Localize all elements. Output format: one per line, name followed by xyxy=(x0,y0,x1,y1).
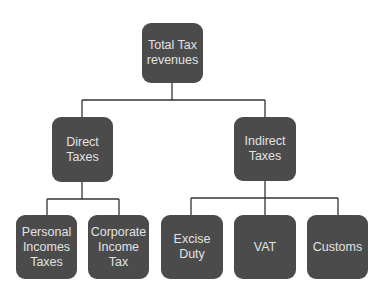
node-direct-taxes: Direct Taxes xyxy=(52,117,113,182)
node-label: Personal Incomes Taxes xyxy=(22,225,71,270)
node-vat: VAT xyxy=(234,215,296,279)
node-excise-duty: Excise Duty xyxy=(161,215,223,279)
node-indirect-taxes: Indirect Taxes xyxy=(234,117,296,181)
tax-revenue-tree-diagram: Total Tax revenues Direct Taxes Indirect… xyxy=(0,0,384,291)
node-personal-incomes-taxes: Personal Incomes Taxes xyxy=(16,215,77,279)
node-label: Total Tax revenues xyxy=(147,38,198,68)
node-total-tax-revenues: Total Tax revenues xyxy=(142,23,203,83)
node-customs: Customs xyxy=(307,215,368,279)
node-label: Direct Taxes xyxy=(66,135,99,165)
node-label: Corporate Income Tax xyxy=(91,225,147,270)
node-corporate-income-tax: Corporate Income Tax xyxy=(88,215,149,279)
node-label: Indirect Taxes xyxy=(245,134,286,164)
node-label: Excise Duty xyxy=(174,232,211,262)
node-label: Customs xyxy=(313,240,362,255)
node-label: VAT xyxy=(254,240,276,255)
